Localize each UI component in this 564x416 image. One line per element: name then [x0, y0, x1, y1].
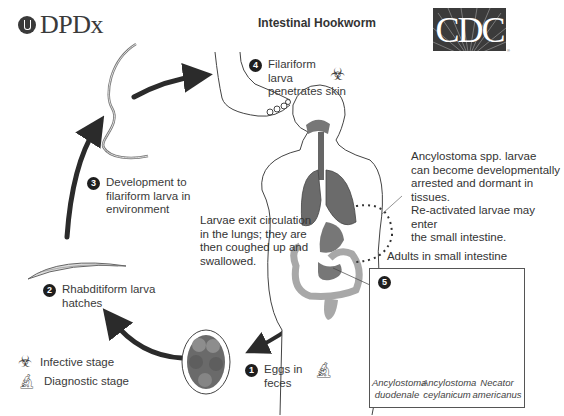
note-line: arrested and dormant in tissues. — [411, 177, 564, 204]
note-line: the small intestine. — [411, 231, 564, 245]
arrow-1-to-2 — [112, 320, 182, 358]
step-3-number-badge: 3 — [87, 177, 100, 190]
note-line: in the lungs; they are — [200, 228, 311, 242]
step-4-text-line: penetrates skin — [268, 85, 346, 99]
species-genus: Ancylostoma — [422, 377, 472, 389]
arrow-3-to-4 — [134, 76, 198, 97]
step-2-text-line: Rhabditiform larva — [62, 283, 155, 297]
biohazard-icon: ☣ — [18, 352, 32, 371]
adults-box-title: Adults in small intestine — [370, 250, 524, 262]
note-line: can become developmentally — [411, 164, 564, 178]
step-3-text-line: environment — [106, 203, 190, 217]
note-line: swallowed. — [200, 255, 311, 269]
step-5-number-badge: 5 — [378, 276, 391, 289]
microscope-icon: 🔬︎ — [314, 361, 333, 379]
note-line: Larvae exit circulation — [200, 214, 311, 228]
step-4-number-badge: 4 — [249, 59, 262, 72]
step-2-number-badge: 2 — [43, 284, 56, 297]
hookworm-egg — [182, 330, 230, 394]
species-label-ceylanicum: Ancylostoma ceylanicum — [422, 377, 472, 400]
step-1-number-badge: 1 — [245, 364, 258, 377]
species-name: americanus — [472, 389, 522, 401]
species-name: duodenale — [372, 389, 422, 401]
species-genus: Necator — [472, 377, 522, 389]
filariform-larva — [103, 44, 148, 158]
step-1-text-line: Eggs in — [264, 363, 302, 377]
biohazard-icon: ☣ — [330, 64, 345, 85]
species-label-duodenale: Ancylostoma duodenale — [372, 377, 422, 400]
legend-infective: ☣ Infective stage — [18, 352, 114, 371]
step-1-label: 1 Eggs in feces — [245, 363, 302, 390]
species-genus: Ancylostoma — [372, 377, 422, 389]
arrested-larvae-note: Ancylostoma spp. larvae can become devel… — [411, 150, 564, 245]
adults-box: Adults in small intestine 5 Ancylostoma … — [369, 268, 525, 408]
step-2-text-line: hatches — [62, 297, 155, 311]
species-label-americanus: Necator americanus — [472, 377, 522, 400]
rhabditiform-larva — [28, 263, 126, 279]
step-3-label: 3 Development to filariform larva in env… — [87, 176, 190, 217]
note-line: Re-activated larvae may enter — [411, 204, 564, 231]
legend-infective-label: Infective stage — [40, 356, 114, 368]
species-name: ceylanicum — [422, 389, 472, 401]
step-3-text-line: filariform larva in — [106, 190, 190, 204]
microscope-icon: 🔬︎ — [18, 373, 36, 389]
lungs-note: Larvae exit circulation in the lungs; th… — [200, 214, 311, 268]
legend-diagnostic-label: Diagnostic stage — [44, 375, 129, 387]
step-2-label: 2 Rhabditiform larva hatches — [43, 283, 155, 310]
step-1-text-line: feces — [264, 377, 302, 391]
step-3-text-line: Development to — [106, 176, 190, 190]
note-line: Ancylostoma spp. larvae — [411, 150, 564, 164]
legend-diagnostic: 🔬︎ Diagnostic stage — [18, 373, 129, 389]
note-line: then coughed up and — [200, 241, 311, 255]
